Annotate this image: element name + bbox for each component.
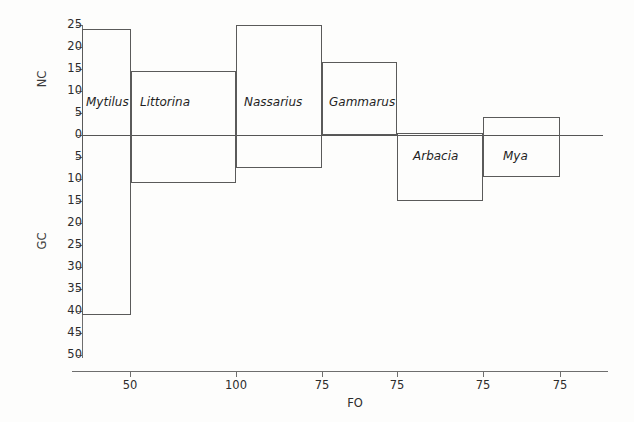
y-axis-tick-label: 50 (44, 349, 82, 361)
y-axis-tick-text: 0 (56, 129, 82, 141)
y-axis-tick-label: 15 (44, 63, 82, 75)
chart-canvas: 25201510505101520253035404550 5010075757… (0, 0, 634, 422)
y-axis-tick-label: 5 (44, 107, 82, 119)
species-label: Arbacia (413, 150, 458, 163)
species-box (397, 133, 483, 201)
x-axis-tick (322, 371, 323, 377)
species-box (483, 117, 560, 176)
y-axis-tick-text: 15 (56, 63, 82, 75)
x-axis-tick-label: 75 (302, 379, 342, 391)
y-axis-tick-text: 30 (56, 261, 82, 273)
y-axis-tick-text: 5 (56, 107, 82, 119)
x-axis-tick (130, 371, 131, 377)
x-axis-tick-label: 100 (216, 379, 256, 391)
species-label: Mya (503, 150, 528, 163)
x-axis-tick-label: 75 (540, 379, 580, 391)
x-axis-tick (560, 371, 561, 377)
y-axis-tick-label: 20 (44, 217, 82, 229)
y-axis-tick-text: 50 (56, 349, 82, 361)
x-axis-tick (397, 371, 398, 377)
y-axis-tick-label: 30 (44, 261, 82, 273)
y-axis-tick-text: 20 (56, 217, 82, 229)
y-axis-title-upper: NC (35, 59, 49, 99)
y-axis-tick-label: 20 (44, 41, 82, 53)
y-axis-tick-text: 40 (56, 305, 82, 317)
species-label: Nassarius (244, 96, 302, 109)
y-axis-tick-label: 45 (44, 327, 82, 339)
y-axis-tick-label: 10 (44, 173, 82, 185)
y-axis-tick-text: 10 (56, 173, 82, 185)
y-axis-tick-label: 25 (44, 239, 82, 251)
x-axis-tick-label: 75 (463, 379, 503, 391)
y-axis-tick-label: 25 (44, 19, 82, 31)
y-axis-tick-text: 10 (56, 85, 82, 97)
y-axis-tick-text: 15 (56, 195, 82, 207)
y-axis-tick-label: 10 (44, 85, 82, 97)
x-axis-line (72, 371, 608, 372)
y-axis-title-lower: GC (35, 221, 49, 261)
x-axis-tick-label: 75 (377, 379, 417, 391)
species-box (131, 71, 236, 183)
x-axis-tick (236, 371, 237, 377)
y-axis-tick-text: 35 (56, 283, 82, 295)
y-axis-tick-label: 0 (44, 129, 82, 141)
y-axis-tick-label: 15 (44, 195, 82, 207)
y-axis-tick-text: 45 (56, 327, 82, 339)
x-axis-title: FO (335, 396, 375, 410)
x-axis-tick (483, 371, 484, 377)
y-axis-tick-label: 40 (44, 305, 82, 317)
species-label: Mytilus (86, 96, 129, 109)
species-label: Gammarus (329, 96, 395, 109)
species-box (82, 29, 131, 315)
y-axis-tick-label: 5 (44, 151, 82, 163)
y-axis-tick-text: 5 (56, 151, 82, 163)
y-axis-tick-text: 20 (56, 41, 82, 53)
species-label: Littorina (140, 96, 190, 109)
x-axis-tick-label: 50 (110, 379, 150, 391)
y-axis-tick-text: 25 (56, 19, 82, 31)
y-axis-tick-label: 35 (44, 283, 82, 295)
y-axis-tick-text: 25 (56, 239, 82, 251)
